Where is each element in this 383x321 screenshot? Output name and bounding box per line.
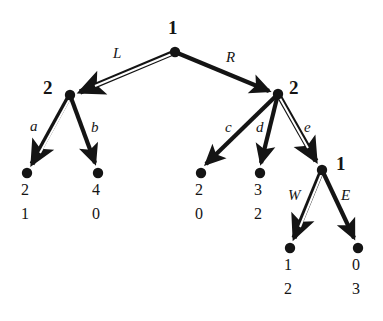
edge-E[interactable] (322, 170, 354, 238)
terminal-node-d[interactable] (255, 168, 265, 178)
edge-label-E: E (341, 188, 350, 203)
edge-label-R: R (226, 50, 235, 65)
payoff-a-player1: 2 (21, 182, 29, 198)
node-owner-root: 1 (168, 18, 178, 37)
edge-R[interactable] (175, 52, 269, 91)
payoff-w-player2: 2 (284, 281, 292, 297)
edge-a[interactable] (32, 95, 71, 164)
payoff-w-player1: 1 (284, 257, 292, 273)
edge-label-L: L (113, 46, 121, 61)
edge-label-b: b (91, 120, 99, 135)
edge-R-line (175, 52, 269, 91)
payoff-c-player1: 2 (195, 182, 203, 198)
edge-label-c: c (225, 120, 232, 135)
edge-E-line (322, 170, 354, 238)
terminal-node-e[interactable] (353, 243, 363, 253)
edge-c[interactable] (206, 94, 278, 164)
edge-W-inner (300, 173, 322, 227)
payoff-b-player2: 0 (92, 206, 100, 222)
game-tree-canvas (0, 0, 383, 321)
node-owner-left: 2 (43, 78, 53, 97)
terminal-node-w[interactable] (285, 243, 295, 253)
node-right[interactable] (273, 89, 283, 99)
terminal-node-a[interactable] (22, 168, 32, 178)
payoff-d-player1: 3 (254, 182, 262, 198)
terminal-node-c[interactable] (196, 168, 206, 178)
payoff-b-player1: 4 (92, 182, 100, 198)
payoff-e-player2: 3 (352, 281, 360, 297)
edge-label-d: d (256, 120, 264, 135)
edge-a-outer (32, 95, 70, 164)
edge-W[interactable] (294, 170, 322, 238)
edge-label-e: e (304, 120, 311, 135)
edge-W-outer (294, 170, 322, 238)
edge-L[interactable] (80, 52, 175, 92)
edge-label-W: W (288, 188, 301, 203)
edge-a-inner (40, 98, 71, 154)
payoff-e-player1: 0 (352, 257, 360, 273)
node-owner-right-right: 1 (336, 154, 346, 173)
edge-c-line (206, 94, 278, 164)
edge-L-inner (95, 54, 173, 87)
node-left[interactable] (65, 90, 75, 100)
node-owner-right: 2 (289, 78, 299, 97)
node-root[interactable] (170, 47, 180, 57)
payoff-a-player2: 1 (21, 206, 29, 222)
node-right-right[interactable] (317, 165, 327, 175)
payoff-c-player2: 0 (195, 206, 203, 222)
terminal-node-b[interactable] (93, 168, 103, 178)
edge-label-a: a (30, 119, 38, 134)
payoff-d-player2: 2 (254, 206, 262, 222)
